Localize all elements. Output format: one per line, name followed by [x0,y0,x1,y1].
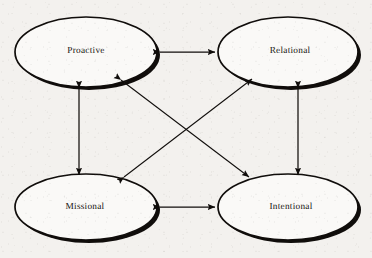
node-label-intentional: Intentional [269,202,312,212]
node-label-missional: Missional [66,202,105,212]
edge-missional-relational[interactable] [124,79,252,177]
diagram-canvas: Proactive Relational Missional Intention… [0,0,372,258]
node-label-proactive: Proactive [67,46,104,56]
diagram-vector-layer [0,0,372,258]
edge-proactive-intentional[interactable] [121,80,249,177]
node-label-relational: Relational [270,46,311,56]
